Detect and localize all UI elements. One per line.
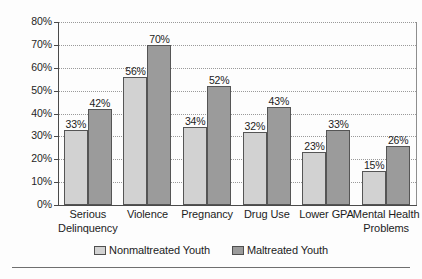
plot-right-border — [416, 22, 417, 206]
bar: 56% — [123, 77, 147, 205]
y-axis-tick-label: 10% — [4, 175, 52, 187]
bar-value-label: 56% — [125, 65, 145, 77]
bar: 70% — [147, 45, 171, 205]
bar: 43% — [267, 107, 291, 205]
category-label-line: Delinquency — [52, 222, 124, 236]
x-axis-line — [58, 205, 417, 206]
bar-value-label: 33% — [328, 118, 348, 130]
legend-item: Maltreated Youth — [232, 244, 328, 256]
bar: 33% — [326, 130, 350, 205]
bar-group: 32%43% — [237, 22, 297, 205]
plot-area: 33%42%56%70%34%52%32%43%23%33%15%26% — [58, 22, 416, 205]
bar-value-label: 42% — [90, 97, 110, 109]
bar: 34% — [183, 127, 207, 205]
legend-label: Maltreated Youth — [247, 244, 328, 256]
bar-value-label: 32% — [245, 120, 265, 132]
bar-value-label: 33% — [66, 118, 86, 130]
bar-group: 56%70% — [118, 22, 178, 205]
bar: 52% — [207, 86, 231, 205]
legend-swatch-icon — [232, 246, 244, 255]
y-axis-tick-label: 80% — [4, 15, 52, 27]
bar: 23% — [302, 152, 326, 205]
category-label-line: Mental Health — [350, 208, 422, 222]
bar-group: 15%26% — [356, 22, 416, 205]
y-axis-tick-label: 40% — [4, 107, 52, 119]
y-axis-tick-label: 20% — [4, 152, 52, 164]
legend-label: Nonmaltreated Youth — [109, 244, 210, 256]
bar-value-label: 26% — [388, 134, 408, 146]
bar: 42% — [88, 109, 112, 205]
y-axis-tick-label: 60% — [4, 61, 52, 73]
page-divider-rule — [12, 267, 410, 268]
bar-value-label: 23% — [304, 140, 324, 152]
bar: 15% — [362, 171, 386, 205]
y-axis-tick-label: 30% — [4, 129, 52, 141]
category-label-line: Problems — [350, 222, 422, 236]
bar: 32% — [243, 132, 267, 205]
chart-legend: Nonmaltreated YouthMaltreated Youth — [0, 244, 422, 256]
bar-value-label: 15% — [364, 159, 384, 171]
bar-group: 33%42% — [58, 22, 118, 205]
bar-value-label: 43% — [269, 95, 289, 107]
chart-figure: 0%10%20%30%40%50%60%70%80% 33%42%56%70%3… — [0, 0, 422, 279]
y-axis-labels: 0%10%20%30%40%50%60%70%80% — [0, 0, 52, 279]
y-axis-tick-label: 50% — [4, 84, 52, 96]
bar-value-label: 52% — [209, 74, 229, 86]
bar-group: 23%33% — [297, 22, 357, 205]
bar-group: 34%52% — [177, 22, 237, 205]
legend-item: Nonmaltreated Youth — [94, 244, 210, 256]
legend-swatch-icon — [94, 246, 106, 255]
bar-value-label: 70% — [149, 33, 169, 45]
bar-value-label: 34% — [185, 115, 205, 127]
y-axis-tick-label: 70% — [4, 38, 52, 50]
bar: 33% — [64, 130, 88, 205]
bar: 26% — [386, 146, 410, 205]
y-axis-tick-label: 0% — [4, 198, 52, 210]
x-axis-category-label: Mental HealthProblems — [350, 208, 422, 235]
y-axis-line — [58, 22, 59, 206]
